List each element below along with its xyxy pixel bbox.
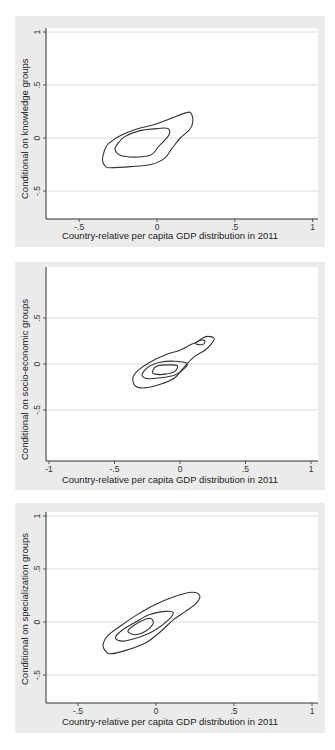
x-axis-label: Country-relative per capita GDP distribu…	[15, 474, 325, 485]
x-tick-label: .5	[230, 706, 237, 716]
y-tick-label: 1	[32, 29, 42, 34]
chart-plot-knowledge: -.50.51-.50.51	[15, 16, 325, 247]
y-tick-label: 0	[32, 619, 42, 624]
x-tick-label: 1	[310, 706, 315, 716]
y-axis-label: Conditional on socio-economic groups	[19, 299, 30, 460]
y-tick-label: -.5	[32, 186, 42, 196]
x-tick-label: 0	[178, 464, 183, 474]
y-tick-label: .5	[32, 81, 42, 88]
x-axis-label: Country-relative per capita GDP distribu…	[15, 716, 325, 727]
y-tick-label: .5	[32, 314, 42, 321]
plot-area	[46, 512, 318, 703]
x-tick-label: -1	[45, 464, 53, 474]
chart-panel-socio-economic: -.50.5-1-.50.51 Conditional on socio-eco…	[15, 262, 325, 490]
y-axis-label: Conditional on knowledge groups	[19, 59, 30, 200]
x-tick-label: .5	[242, 464, 249, 474]
y-tick-label: .5	[32, 565, 42, 572]
y-tick-label: 0	[32, 361, 42, 366]
chart-panel-knowledge: -.50.51-.50.51 Conditional on knowledge …	[15, 16, 325, 247]
x-tick-label: -.5	[73, 706, 83, 716]
chart-plot-socio-economic: -.50.5-1-.50.51	[15, 262, 325, 490]
plot-area	[46, 28, 318, 219]
y-tick-label: 1	[32, 513, 42, 518]
x-axis-label: Country-relative per capita GDP distribu…	[15, 230, 325, 241]
y-tick-label: 0	[32, 135, 42, 140]
y-tick-label: -.5	[32, 670, 42, 680]
x-tick-label: 1	[309, 464, 314, 474]
y-axis-label: Conditional on specialization groups	[19, 533, 30, 685]
y-tick-label: -.5	[32, 405, 42, 415]
chart-panel-specialization: -.50.51-.50.51 Conditional on specializa…	[15, 503, 325, 733]
x-tick-label: -.5	[110, 464, 120, 474]
x-tick-label: 0	[154, 706, 159, 716]
chart-plot-specialization: -.50.51-.50.51	[15, 503, 325, 733]
